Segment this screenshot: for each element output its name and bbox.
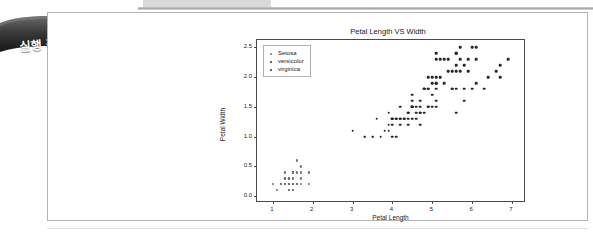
legend-label-versicolor: versicolor (278, 58, 304, 64)
data-point-virginica (459, 70, 462, 73)
data-point-versicolor (399, 105, 402, 108)
data-point-setosa (284, 171, 286, 173)
data-point-virginica (411, 94, 414, 97)
data-point-setosa (288, 177, 290, 179)
data-point-setosa (288, 189, 290, 191)
data-point-versicolor (411, 105, 414, 108)
y-axis-tick-label: 0.5 (244, 162, 252, 168)
data-point-versicolor (351, 129, 354, 132)
data-point-versicolor (391, 123, 394, 126)
legend-item-virginica: virginica (267, 65, 304, 73)
legend-label-virginica: virginica (278, 66, 300, 72)
data-point-virginica (435, 52, 438, 55)
x-axis-tick (512, 201, 513, 204)
data-point-virginica (447, 58, 450, 61)
data-point-virginica (463, 88, 466, 91)
data-point-virginica (431, 76, 434, 79)
data-point-versicolor (399, 123, 402, 126)
data-point-versicolor (395, 117, 398, 120)
data-point-versicolor (391, 117, 394, 120)
data-point-virginica (487, 76, 490, 79)
x-axis-tick-label: 1 (270, 206, 273, 212)
data-point-virginica (443, 82, 446, 85)
data-point-virginica (459, 58, 462, 61)
y-axis-tick (254, 137, 257, 138)
y-axis-tick (254, 166, 257, 167)
x-axis-label: Petal Length (256, 214, 525, 221)
data-point-virginica (435, 76, 438, 79)
data-point-versicolor (415, 117, 418, 120)
result-content-panel: Petal Length VS Width Setosa versicolor … (47, 12, 588, 221)
data-point-virginica (475, 58, 478, 61)
data-point-versicolor (371, 135, 374, 138)
data-point-virginica (471, 88, 474, 91)
data-point-setosa (292, 171, 294, 173)
data-point-setosa (280, 183, 282, 185)
data-point-virginica (471, 46, 474, 49)
data-point-virginica (467, 58, 470, 61)
data-point-versicolor (419, 105, 422, 108)
data-point-versicolor (395, 135, 398, 138)
data-point-versicolor (419, 111, 422, 114)
data-point-virginica (467, 70, 470, 73)
data-point-virginica (483, 88, 486, 91)
legend-marker-icon (267, 60, 275, 78)
data-point-setosa (296, 171, 298, 173)
data-point-setosa (300, 171, 302, 173)
data-point-setosa (272, 183, 274, 185)
data-point-setosa (308, 183, 310, 185)
data-point-virginica (427, 76, 430, 79)
x-axis-tick-label: 6 (470, 206, 473, 212)
data-point-versicolor (419, 123, 422, 126)
data-point-setosa (284, 177, 286, 179)
x-axis-tick (313, 201, 314, 204)
data-point-virginica (455, 64, 458, 67)
data-point-setosa (296, 183, 298, 185)
data-point-virginica (451, 88, 454, 91)
data-point-virginica (499, 76, 502, 79)
data-point-setosa (276, 189, 278, 191)
data-point-versicolor (431, 94, 434, 97)
chart-legend: Setosa versicolor virginica (263, 45, 311, 77)
data-point-versicolor (383, 129, 386, 132)
data-point-virginica (495, 70, 498, 73)
plot-axes-box: Setosa versicolor virginica (256, 39, 525, 202)
data-point-versicolor (363, 135, 366, 138)
data-point-setosa (292, 189, 294, 191)
bottom-divider-rule (47, 228, 588, 229)
x-axis-tick-label: 5 (430, 206, 433, 212)
data-point-versicolor (411, 117, 414, 120)
top-divider-rule (138, 7, 593, 10)
y-axis-tick-label: 2.5 (244, 43, 252, 49)
data-point-virginica (435, 82, 438, 85)
data-point-virginica (435, 88, 438, 91)
data-point-virginica (435, 105, 438, 108)
data-point-virginica (455, 111, 458, 114)
y-axis-tick (254, 77, 257, 78)
data-point-virginica (443, 58, 446, 61)
y-axis-tick-label: 2.0 (244, 73, 252, 79)
data-point-versicolor (415, 105, 418, 108)
data-point-setosa (284, 183, 286, 185)
data-point-versicolor (411, 100, 414, 103)
y-axis-tick (254, 107, 257, 108)
data-point-setosa (296, 159, 298, 161)
data-point-virginica (475, 82, 478, 85)
data-point-virginica (439, 76, 442, 79)
y-axis-tick-label: 1.0 (244, 133, 252, 139)
data-point-virginica (463, 64, 466, 67)
data-point-versicolor (435, 100, 438, 103)
data-point-virginica (455, 70, 458, 73)
data-point-setosa (300, 165, 302, 167)
data-point-versicolor (407, 117, 410, 120)
y-axis-tick-label: 1.5 (244, 103, 252, 109)
data-point-versicolor (403, 117, 406, 120)
chart-title: Petal Length VS Width (233, 27, 543, 36)
data-point-setosa (292, 177, 294, 179)
data-point-versicolor (407, 123, 410, 126)
data-point-versicolor (399, 117, 402, 120)
data-point-versicolor (427, 105, 430, 108)
x-axis-tick-label: 7 (509, 206, 512, 212)
y-axis-tick (254, 196, 257, 197)
data-point-versicolor (387, 123, 390, 126)
